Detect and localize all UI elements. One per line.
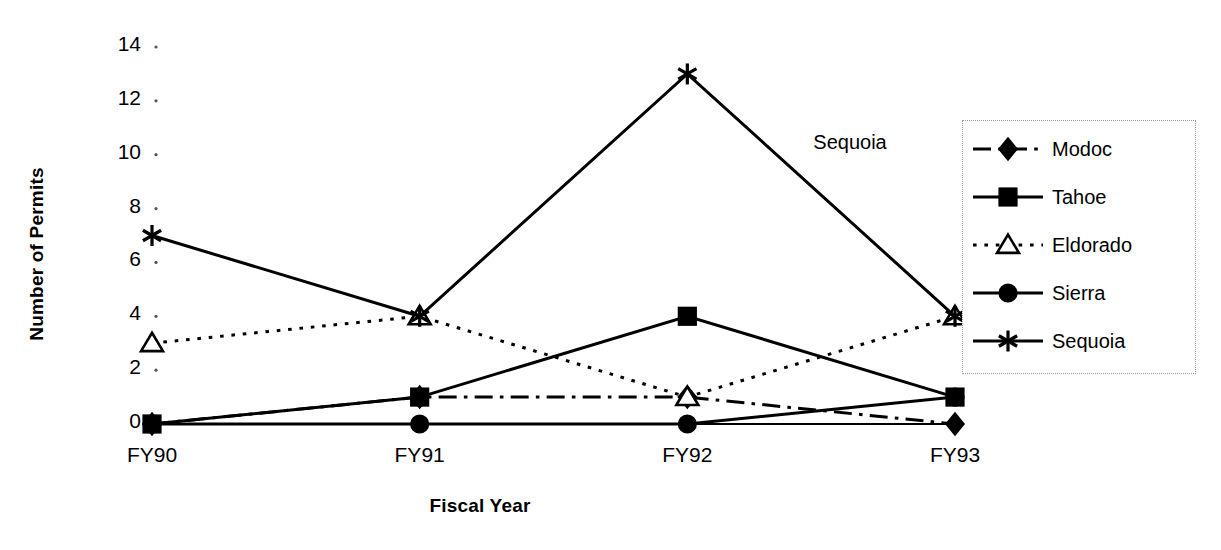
- legend-label: Modoc: [1052, 138, 1112, 161]
- y-tick-label: 14: [95, 32, 141, 56]
- x-tick-label: FY92: [627, 443, 747, 467]
- legend-label: Sequoia: [1052, 330, 1125, 353]
- series-sierra: [144, 389, 964, 433]
- marker-square: [411, 389, 428, 406]
- legend-item-eldorado[interactable]: Eldorado: [971, 223, 1132, 267]
- legend-item-modoc[interactable]: Modoc: [971, 127, 1112, 171]
- legend-sample-tahoe: [971, 184, 1045, 210]
- legend-sample-eldorado: [971, 232, 1045, 258]
- marker-circle: [679, 416, 696, 433]
- x-tick-label: FY90: [92, 443, 212, 467]
- legend-sample-modoc: [971, 136, 1045, 162]
- marker-square: [1000, 189, 1017, 206]
- y-tick-dot: [154, 45, 157, 48]
- marker-circle: [947, 389, 964, 406]
- legend: ModocTahoeEldoradoSierraSequoia: [962, 120, 1196, 374]
- y-axis-title: Number of Permits: [26, 139, 48, 369]
- y-tick-dot: [154, 207, 157, 210]
- chart-figure: Number of Permits Fiscal Year 0246810121…: [0, 0, 1221, 550]
- y-tick-dot: [154, 261, 157, 264]
- marker-circle: [144, 416, 161, 433]
- legend-item-sequoia[interactable]: Sequoia: [971, 319, 1125, 363]
- marker-circle: [411, 416, 428, 433]
- y-tick-label: 2: [95, 355, 141, 379]
- legend-label: Tahoe: [1052, 186, 1107, 209]
- series-line: [152, 74, 955, 316]
- series-annotation: Sequoia: [813, 131, 886, 154]
- series-modoc: [143, 387, 963, 435]
- marker-triangle: [141, 333, 163, 351]
- legend-label: Eldorado: [1052, 234, 1132, 257]
- marker-asterisk: [143, 225, 161, 246]
- legend-label: Sierra: [1052, 282, 1105, 305]
- series-layer: [141, 63, 966, 434]
- y-tick-marks: [154, 45, 157, 371]
- x-tick-label: FY93: [895, 443, 1015, 467]
- marker-square: [679, 308, 696, 325]
- series-sequoia: [143, 63, 964, 326]
- marker-circle: [1000, 285, 1017, 302]
- y-tick-dot: [154, 315, 157, 318]
- y-tick-dot: [154, 153, 157, 156]
- y-tick-label: 4: [95, 301, 141, 325]
- x-axis-title: Fiscal Year: [0, 495, 960, 517]
- legend-sample-sequoia: [971, 328, 1045, 354]
- marker-diamond: [946, 414, 963, 435]
- y-tick-label: 12: [95, 86, 141, 110]
- legend-item-sierra[interactable]: Sierra: [971, 271, 1105, 315]
- y-tick-label: 6: [95, 247, 141, 271]
- y-tick-label: 8: [95, 194, 141, 218]
- marker-triangle: [997, 235, 1019, 253]
- y-tick-dot: [154, 99, 157, 102]
- y-tick-label: 0: [95, 409, 141, 433]
- legend-sample-sierra: [971, 280, 1045, 306]
- x-tick-label: FY91: [360, 443, 480, 467]
- marker-diamond: [999, 139, 1016, 160]
- y-tick-label: 10: [95, 140, 141, 164]
- y-tick-dot: [154, 369, 157, 372]
- legend-item-tahoe[interactable]: Tahoe: [971, 175, 1107, 219]
